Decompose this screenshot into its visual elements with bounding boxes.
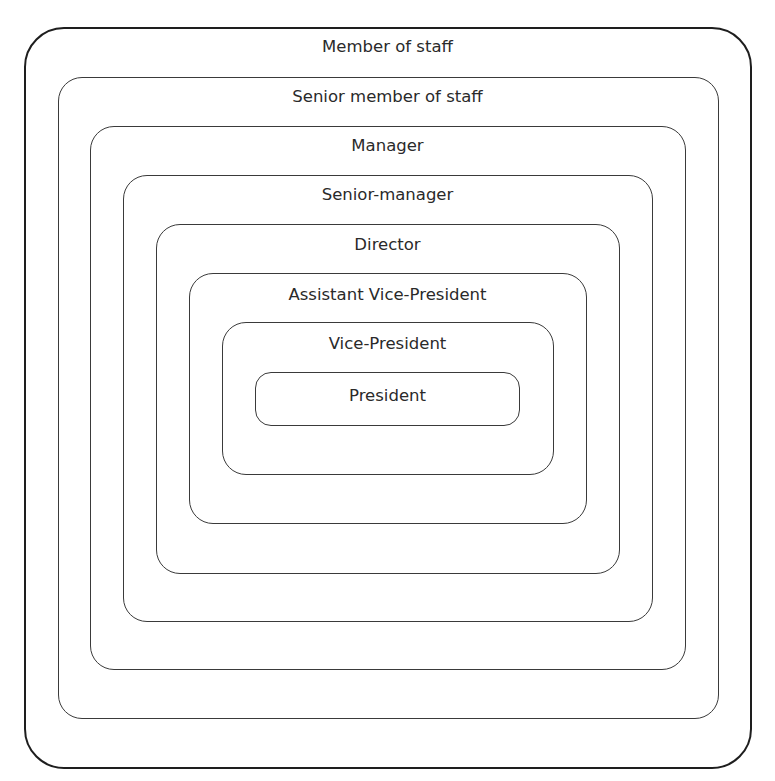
level-label-senior-manager: Senior-manager [0,185,775,205]
level-label-vice-president: Vice-President [0,334,775,354]
level-label-assistant-vice-president: Assistant Vice-President [0,285,775,305]
level-label-president: President [0,386,775,406]
level-label-manager: Manager [0,136,775,156]
level-label-senior-member-of-staff: Senior member of staff [0,87,775,107]
level-label-director: Director [0,235,775,255]
level-label-member-of-staff: Member of staff [0,37,775,57]
hierarchy-diagram: Member of staff Senior member of staff M… [0,0,775,781]
